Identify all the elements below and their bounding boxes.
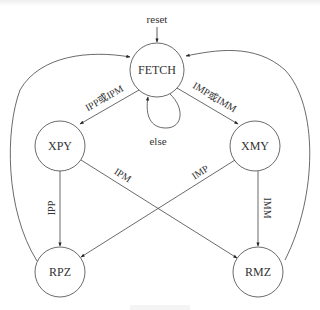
state-xpy: XPY <box>35 121 85 171</box>
xmy-rpz-label: IMP <box>190 162 211 181</box>
state-rmz-label: RMZ <box>245 265 271 279</box>
reset-label: reset <box>147 13 168 25</box>
state-rpz-label: RPZ <box>49 265 71 279</box>
transition-xpy-rmz: IPM <box>81 160 237 258</box>
state-rpz: RPZ <box>35 247 85 297</box>
state-diagram: reset FETCH else IPP或IPM IMP或IMM XPY XMY… <box>0 0 320 310</box>
xpy-rpz-label: IPP <box>46 200 57 215</box>
state-rmz: RMZ <box>233 247 283 297</box>
else-loop: else <box>147 94 180 147</box>
transition-fetch-xpy: IPP或IPM <box>80 83 139 124</box>
reset-transition: reset <box>147 13 168 42</box>
state-xmy: XMY <box>230 121 280 171</box>
state-xpy-label: XPY <box>48 139 72 153</box>
state-fetch-label: FETCH <box>138 63 176 77</box>
transition-xmy-rmz: IMM <box>258 171 273 246</box>
transition-fetch-xmy: IMP或IMM <box>177 80 239 124</box>
xmy-rmz-label: IMM <box>262 197 273 218</box>
else-label: else <box>149 135 166 147</box>
state-xmy-label: XMY <box>241 139 269 153</box>
state-fetch: FETCH <box>130 43 184 97</box>
transition-xpy-rpz: IPP <box>46 171 60 246</box>
fetch-xpy-label: IPP或IPM <box>83 83 125 114</box>
fetch-xmy-label: IMP或IMM <box>191 80 239 115</box>
